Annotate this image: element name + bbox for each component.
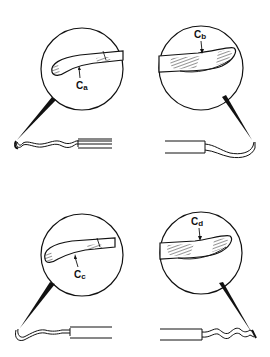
pointer-wedge-a: [17, 97, 56, 140]
instrument-c: [15, 327, 112, 341]
pointer-wedge-b: [222, 95, 252, 140]
instrument-d: [160, 328, 256, 340]
instrument-a: [15, 139, 112, 148]
panel-d: Cd: [160, 212, 256, 340]
panel-c: Cc: [15, 214, 123, 341]
instrument-b: [165, 141, 255, 158]
pointer-wedge-d: [219, 282, 252, 333]
pointer-wedge-c: [20, 282, 55, 328]
panel-a: Ca: [15, 28, 123, 148]
instrument-diagram: Ca Cb: [0, 0, 270, 357]
panel-b: Cb: [159, 26, 255, 158]
